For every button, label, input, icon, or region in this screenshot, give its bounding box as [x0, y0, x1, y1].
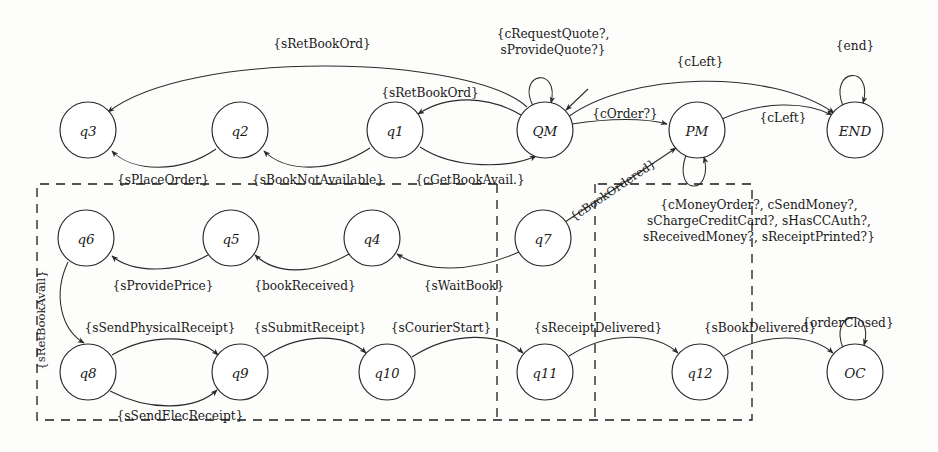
state-diagram-svg: q3 q2 q1 QM PM END — [0, 0, 938, 452]
edge-end-self-loop — [840, 76, 865, 106]
edge-q8-to-q9-physical — [112, 339, 218, 355]
edge-label-ssendphysicalreceipt: {sSendPhysicalReceipt} — [84, 321, 235, 335]
node-qm[interactable]: QM — [517, 102, 573, 158]
node-label-q2: q2 — [231, 123, 248, 139]
edge-label-scourierstart: {sCourierStart} — [391, 321, 491, 335]
node-label-qm: QM — [533, 123, 559, 139]
node-pm[interactable]: PM — [669, 102, 725, 158]
node-q10[interactable]: q10 — [359, 344, 415, 400]
diagram-canvas: q3 q2 q1 QM PM END — [0, 0, 938, 452]
edge-q2-to-q3 — [112, 149, 216, 167]
edge-q9-to-q10 — [264, 338, 366, 357]
node-label-q4: q4 — [363, 231, 380, 247]
node-label-end: END — [838, 123, 872, 139]
edge-label-corder: {cOrder?} — [592, 107, 658, 121]
node-label-q12: q12 — [688, 366, 713, 381]
node-label-q3: q3 — [79, 123, 96, 139]
edge-q8-to-q9-elec — [110, 390, 217, 406]
node-q1[interactable]: q1 — [367, 102, 423, 158]
edge-label-cgetbookavail: {cGetBookAvail.} — [415, 173, 524, 187]
node-label-q10: q10 — [375, 366, 400, 381]
edge-label-money-line1: {cMoneyOrder?, cSendMoney?, — [660, 198, 858, 212]
edge-q10-to-q11 — [412, 337, 523, 357]
edge-label-crequestquote-line1: {cRequestQuote?, — [497, 27, 610, 41]
edge-q1-to-qm — [420, 147, 536, 165]
edge-q4-to-q5 — [255, 254, 349, 270]
node-label-q9: q9 — [231, 365, 249, 381]
edge-q7-to-q4 — [397, 252, 519, 268]
edge-label-bookreceived: {bookReceived} — [254, 279, 356, 293]
node-q7[interactable]: q7 — [515, 210, 571, 266]
edge-label-sretbookord-top: {sRetBookOrd} — [273, 37, 371, 51]
edge-label-ssendelecreceipt: {sSendElecReceipt} — [117, 409, 244, 423]
edge-label-sretbookavail-vertical: {sRetBookAvail} — [34, 270, 48, 369]
edge-label-cleft-lower: {cLeft} — [759, 111, 806, 125]
edge-label-sprovideprice: {sProvidePrice} — [113, 279, 214, 293]
edge-label-money-line3: sReceivedMoney?, sReceiptPrinted?} — [643, 230, 875, 244]
node-label-q8: q8 — [79, 365, 97, 381]
edge-qm-to-q1 — [418, 100, 521, 115]
edge-label-cbookordered: {cBookOrdered} — [568, 156, 659, 223]
edge-label-splaceorder: {sPlaceOrder} — [117, 173, 209, 187]
node-label-pm: PM — [685, 123, 710, 139]
nodes-group: q3 q2 q1 QM PM END — [58, 102, 883, 400]
edge-label-end-self: {end} — [836, 39, 874, 53]
edge-label-crequestquote-line2: sProvideQuote?} — [501, 43, 606, 57]
node-label-q1: q1 — [386, 123, 403, 139]
node-oc[interactable]: OC — [827, 344, 883, 400]
edge-label-cleft-upper: {cLeft} — [676, 55, 723, 69]
edge-label-sbooknotavailable: {sBookNotAvailable} — [252, 173, 384, 187]
node-q8[interactable]: q8 — [60, 344, 116, 400]
edge-q11-to-q12 — [569, 337, 678, 356]
edge-label-swaitbook: {sWaitBook} — [424, 279, 504, 293]
edge-label-orderclosed: {orderClosed} — [802, 316, 893, 330]
edge-label-ssubmitreceipt: {sSubmitReceipt} — [253, 321, 366, 335]
edge-label-sretbookord-mid: {sRetBookOrd} — [381, 86, 479, 100]
node-end[interactable]: END — [827, 102, 883, 158]
node-q11[interactable]: q11 — [517, 344, 573, 400]
edge-q12-to-oc — [724, 338, 833, 356]
edge-label-sreceiptdelivered: {sReceiptDelivered} — [534, 321, 663, 335]
edge-q1-to-q2 — [264, 148, 370, 167]
node-label-q6: q6 — [77, 231, 95, 247]
edge-q5-to-q6 — [112, 255, 208, 269]
node-q4[interactable]: q4 — [344, 210, 400, 266]
node-q2[interactable]: q2 — [212, 102, 268, 158]
edge-label-money-line2: sChargeCreditCard?, sHasCCAuth?, — [647, 214, 871, 228]
node-q6[interactable]: q6 — [58, 210, 114, 266]
node-label-q5: q5 — [222, 231, 239, 247]
edge-pm-self-loop — [683, 155, 705, 186]
edge-q6-to-q8 — [60, 262, 84, 343]
node-label-q7: q7 — [534, 231, 552, 247]
node-q12[interactable]: q12 — [672, 344, 728, 400]
node-label-oc: OC — [844, 365, 866, 381]
node-q3[interactable]: q3 — [60, 102, 116, 158]
edge-label-sbookdelivered: {sBookDelivered} — [704, 321, 817, 335]
node-q9[interactable]: q9 — [212, 344, 268, 400]
node-label-q11: q11 — [533, 366, 558, 381]
node-q5[interactable]: q5 — [203, 210, 259, 266]
